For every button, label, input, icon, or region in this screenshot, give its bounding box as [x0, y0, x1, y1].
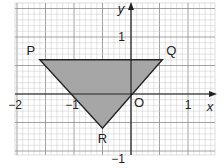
vertex-label-p: P	[26, 43, 35, 58]
origin-label: O	[134, 95, 144, 110]
vertex-label-r: R	[98, 131, 107, 146]
y-tick-label: −1	[111, 152, 125, 166]
y-tick-label: 1	[118, 30, 125, 44]
x-tick-label: 1	[185, 98, 192, 112]
x-tick-label: −2	[8, 98, 22, 112]
x-tick-label: −1	[65, 98, 79, 112]
coordinate-plane: xyO−2−111−1PQR	[0, 0, 224, 168]
vertex-label-q: Q	[166, 43, 176, 58]
x-axis-label: x	[206, 99, 214, 114]
